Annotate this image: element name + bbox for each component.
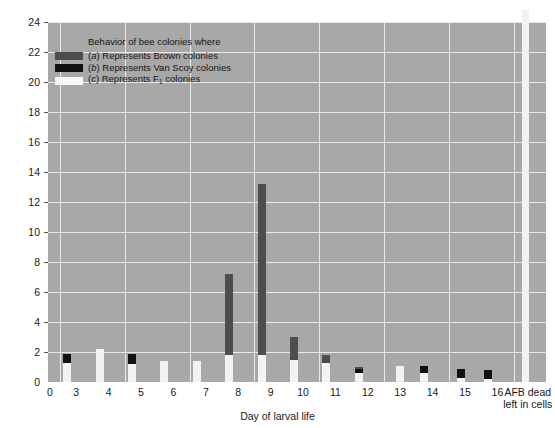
gridline-vertical [384, 22, 385, 382]
y-tick-label-12: 12 [0, 197, 40, 207]
bar-c [225, 355, 233, 382]
bar-c [160, 361, 168, 382]
gridline-horizontal [48, 112, 546, 113]
bar-c [355, 373, 363, 382]
legend-label-c: (c) Represents F1 colonies [88, 73, 200, 89]
y-tick-mark [44, 352, 48, 353]
y-tick-label-0: 0 [0, 377, 40, 387]
y-tick-label-10: 10 [0, 227, 40, 237]
bar-c [193, 361, 201, 382]
y-tick-mark [44, 172, 48, 173]
y-tick-mark [44, 292, 48, 293]
legend-swatch-a-icon [55, 52, 83, 60]
bar-a [258, 184, 266, 382]
y-tick-mark [44, 322, 48, 323]
legend-title: Behavior of bee colonies where [88, 36, 231, 49]
bar-c [484, 379, 492, 382]
y-tick-mark [44, 202, 48, 203]
y-tick-mark [44, 262, 48, 263]
legend-entry-c: (c) Represents F1 colonies [55, 75, 231, 88]
legend: Behavior of bee colonies where (a) Repre… [55, 36, 231, 87]
y-tick-label-20: 20 [0, 77, 40, 87]
gridline-horizontal [48, 202, 546, 203]
gridline-horizontal [48, 172, 546, 173]
gridline-horizontal [48, 142, 546, 143]
y-tick-mark [44, 82, 48, 83]
gridline-vertical [449, 22, 450, 382]
x-tick-label-afb: AFB deadleft in cells [488, 386, 555, 410]
y-tick-label-2: 2 [0, 347, 40, 357]
y-tick-label-18: 18 [0, 107, 40, 117]
bar-c [322, 363, 330, 383]
bar-c [290, 360, 298, 383]
gridline-horizontal [48, 232, 546, 233]
bar-c [396, 366, 404, 383]
y-tick-mark [44, 22, 48, 23]
y-tick-label-22: 22 [0, 47, 40, 57]
y-tick-label-8: 8 [0, 257, 40, 267]
gridline-vertical [254, 22, 255, 382]
x-axis-title: Day of larval life [0, 410, 555, 422]
x-tick-label-0: 0 [10, 386, 90, 398]
legend-entry-a: (a) Represents Brown colonies [55, 50, 231, 63]
bar-c [457, 378, 465, 383]
gridline-vertical [319, 22, 320, 382]
bar-c [128, 364, 136, 382]
y-tick-label-16: 16 [0, 137, 40, 147]
y-tick-label-24: 24 [0, 17, 40, 27]
gridline-horizontal [48, 292, 546, 293]
bar-chart-figure: 024681012141618202224 345678910111213141… [0, 0, 555, 428]
y-tick-label-6: 6 [0, 287, 40, 297]
bar-c [522, 10, 529, 382]
y-tick-mark [44, 112, 48, 113]
y-tick-mark [44, 142, 48, 143]
bar-c [420, 373, 428, 382]
legend-swatch-b-icon [55, 64, 83, 72]
gridline-horizontal [48, 262, 546, 263]
bar-c [63, 363, 71, 383]
y-tick-mark [44, 232, 48, 233]
bar-c [96, 349, 104, 382]
legend-label-a: (a) Represents Brown colonies [88, 50, 218, 63]
y-tick-label-4: 4 [0, 317, 40, 327]
gridline-horizontal [48, 322, 546, 323]
legend-swatch-c-icon [55, 77, 83, 85]
y-tick-label-14: 14 [0, 167, 40, 177]
gridline-horizontal [48, 22, 546, 23]
bar-c [258, 355, 266, 382]
gridline-vertical [514, 22, 515, 382]
y-tick-mark [44, 52, 48, 53]
